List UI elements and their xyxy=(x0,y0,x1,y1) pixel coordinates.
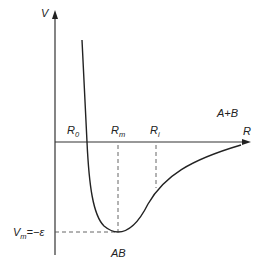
potential-curve xyxy=(82,40,241,232)
r0-label: R0 xyxy=(67,124,80,139)
v-axis-label: V xyxy=(41,7,50,19)
v-axis-arrow-icon xyxy=(52,10,58,19)
bound-state-label: AB xyxy=(110,247,126,259)
r-axis-arrow-icon xyxy=(242,139,251,145)
ri-label: Ri xyxy=(150,124,160,139)
dissociated-label: A+B xyxy=(216,107,238,119)
potential-diagram: V R R0 Rm Ri A+B AB Vm=−ε xyxy=(0,0,278,275)
rm-label: Rm xyxy=(111,124,125,139)
minimum-energy-label: Vm=−ε xyxy=(13,226,44,241)
r-axis-label: R xyxy=(243,125,251,137)
